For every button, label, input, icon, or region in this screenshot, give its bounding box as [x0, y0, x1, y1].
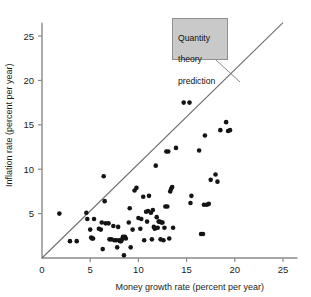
data-point [57, 211, 62, 216]
data-point [99, 220, 104, 225]
annotation-line-2: theory [178, 54, 222, 65]
data-point [141, 194, 146, 199]
annotation-line-3: prediction [178, 76, 222, 87]
data-point [101, 174, 106, 179]
data-point [74, 239, 79, 244]
data-point [138, 226, 143, 231]
data-point [166, 149, 171, 154]
data-point [203, 133, 208, 138]
data-point [100, 247, 105, 252]
data-point [170, 185, 175, 190]
x-axis-title: Money growth rate (percent per year) [115, 282, 264, 292]
data-point [145, 219, 150, 224]
data-point [181, 100, 186, 105]
data-point [85, 217, 90, 222]
data-point [155, 226, 160, 231]
data-point [134, 186, 139, 191]
data-point [201, 232, 206, 237]
data-point [102, 199, 107, 204]
data-point [122, 253, 127, 258]
data-point [126, 220, 131, 225]
data-point [92, 217, 97, 222]
data-point [224, 120, 229, 125]
data-point [99, 227, 104, 232]
data-point [218, 128, 223, 133]
data-point [142, 238, 147, 243]
scatter-plot: 0510152025510152025Money growth rate (pe… [0, 0, 311, 297]
x-tick-label: 10 [133, 264, 144, 275]
chart-figure: 0510152025510152025Money growth rate (pe… [0, 0, 311, 297]
quantity-theory-annotation: Quantity theory prediction [172, 18, 228, 60]
data-point [147, 194, 152, 199]
data-point [88, 227, 93, 232]
data-point [189, 194, 194, 199]
x-tick-label: 5 [88, 264, 93, 275]
data-point [165, 204, 170, 209]
data-point [139, 217, 144, 222]
data-point [106, 221, 111, 226]
data-point [116, 225, 121, 230]
data-point [84, 210, 89, 215]
data-point [206, 202, 211, 207]
data-point [187, 100, 192, 105]
data-point [130, 227, 135, 232]
data-point [151, 208, 156, 213]
y-tick-label: 5 [29, 208, 34, 219]
x-tick-label: 25 [278, 264, 289, 275]
data-point [162, 226, 167, 231]
annotation-line-1: Quantity [178, 33, 222, 44]
y-tick-label: 25 [23, 31, 34, 42]
data-point [215, 179, 220, 184]
data-point [160, 220, 165, 225]
data-point [188, 201, 193, 206]
y-tick-label: 15 [23, 119, 34, 130]
data-points-group [57, 100, 232, 257]
data-point [111, 224, 116, 229]
y-axis-title: Inflation rate (percent per year) [4, 64, 14, 188]
data-point [91, 236, 96, 241]
data-point [174, 146, 179, 151]
data-point [154, 215, 159, 220]
data-point [228, 128, 233, 133]
data-point [197, 148, 202, 153]
data-point [167, 236, 172, 241]
data-point [161, 238, 166, 243]
data-point [127, 206, 132, 211]
data-point [68, 239, 73, 244]
data-point [124, 236, 129, 241]
x-tick-label: 20 [230, 264, 241, 275]
data-point [150, 237, 155, 242]
data-point [213, 172, 218, 177]
data-point [153, 163, 158, 168]
data-point [171, 226, 176, 231]
axes-group [38, 23, 297, 262]
data-point [208, 178, 213, 183]
axis-lines [42, 23, 297, 258]
x-tick-label: 0 [39, 264, 44, 275]
data-point [115, 245, 120, 250]
data-point [128, 245, 133, 250]
y-tick-label: 20 [23, 75, 34, 86]
x-tick-label: 15 [181, 264, 192, 275]
y-tick-label: 10 [23, 164, 34, 175]
